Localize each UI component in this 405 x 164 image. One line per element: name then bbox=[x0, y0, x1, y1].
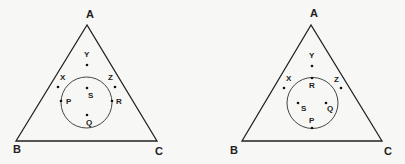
vertex-label-b: B bbox=[13, 143, 21, 155]
point-label-q: Q bbox=[327, 104, 333, 113]
point-p-dot bbox=[60, 100, 63, 103]
vertex-label-a: A bbox=[86, 8, 94, 20]
vertex-label-c: C bbox=[155, 145, 163, 157]
point-label-r: R bbox=[116, 97, 122, 106]
point-x-dot bbox=[283, 87, 286, 90]
point-x-dot bbox=[57, 86, 60, 89]
point-label-y: Y bbox=[84, 50, 90, 59]
point-r-dot bbox=[311, 77, 314, 80]
right-diagram: A B C Y R X Z S Q P bbox=[230, 7, 392, 157]
point-label-q: Q bbox=[86, 118, 92, 127]
point-p-dot bbox=[311, 127, 314, 130]
point-label-s: S bbox=[301, 104, 307, 113]
point-label-z: Z bbox=[334, 75, 339, 84]
point-label-z: Z bbox=[108, 73, 113, 82]
point-label-x: X bbox=[60, 73, 66, 82]
point-s-dot bbox=[86, 87, 89, 90]
point-s-dot bbox=[297, 102, 300, 105]
point-label-p: P bbox=[66, 97, 72, 106]
point-label-x: X bbox=[286, 74, 292, 83]
point-z-dot bbox=[340, 87, 343, 90]
vertex-label-b: B bbox=[230, 144, 238, 156]
point-y-dot bbox=[311, 65, 314, 68]
point-label-r: R bbox=[309, 81, 315, 90]
left-diagram: A B C Y X Z S P R Q bbox=[13, 8, 163, 157]
point-y-dot bbox=[86, 64, 89, 67]
point-r-dot bbox=[111, 100, 114, 103]
vertex-label-a: A bbox=[310, 7, 318, 19]
point-z-dot bbox=[114, 86, 117, 89]
point-q-dot bbox=[86, 114, 89, 117]
point-label-p: P bbox=[309, 116, 315, 125]
vertex-label-c: C bbox=[384, 145, 392, 157]
point-label-y: Y bbox=[309, 51, 315, 60]
diagram-canvas: A B C Y X Z S P R Q A B C Y R bbox=[0, 0, 405, 164]
point-label-s: S bbox=[88, 91, 94, 100]
